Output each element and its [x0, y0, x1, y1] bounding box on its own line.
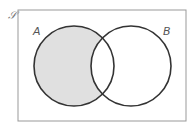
venn-diagram: 𝒮 A B	[0, 0, 195, 127]
set-a-label: A	[32, 25, 41, 38]
set-b-label: B	[163, 25, 171, 38]
